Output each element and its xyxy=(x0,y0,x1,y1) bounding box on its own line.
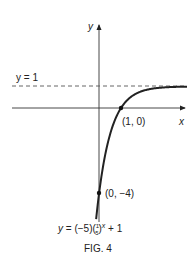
point-1-0 xyxy=(119,106,123,110)
point-1-0-label: (1, 0) xyxy=(122,116,145,127)
curve xyxy=(96,87,187,219)
figure: y x y = 1 (1, 0) (0, −4) y = (−5)(15)x +… xyxy=(0,0,194,264)
y-axis-label: y xyxy=(87,21,94,32)
asymptote-label: y = 1 xyxy=(16,72,38,83)
figure-caption: FIG. 4 xyxy=(84,243,112,254)
equation: y = (−5)(15)x + 1 xyxy=(57,222,123,236)
point-0-neg4-label: (0, −4) xyxy=(105,188,134,199)
point-0-neg4 xyxy=(97,191,101,195)
x-axis-label: x xyxy=(178,116,185,127)
